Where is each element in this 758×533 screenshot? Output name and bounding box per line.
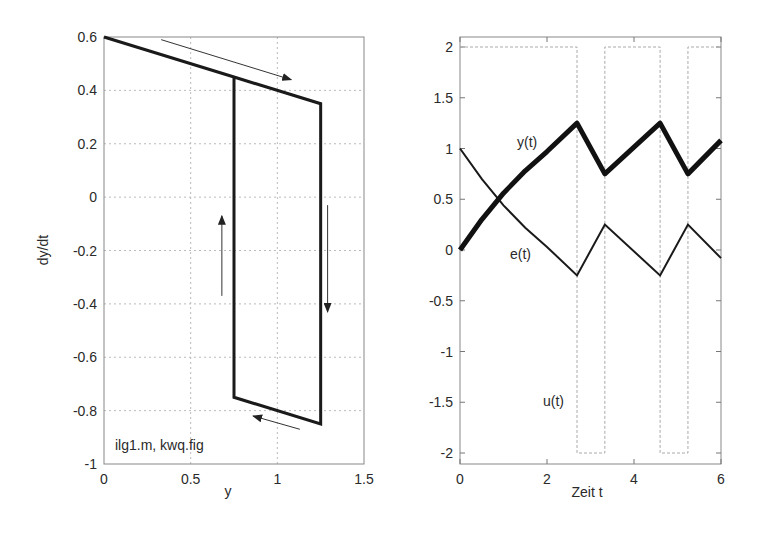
annotation-text: ilg1.m, kwq.fig bbox=[115, 437, 204, 453]
time-plot: 024621.510.50-0.5-1-1.5-2 y(t) e(t) u(t)… bbox=[429, 37, 725, 500]
y-tick-label: -0.4 bbox=[73, 296, 97, 312]
y-tick-label: 0.6 bbox=[78, 29, 98, 45]
y-tick-label: 1 bbox=[445, 141, 453, 157]
figure: 00.511.50.60.40.20-0.2-0.4-0.6-0.8-1 ilg… bbox=[0, 0, 758, 533]
y-tick-label: 0.2 bbox=[78, 136, 98, 152]
label-e-t: e(t) bbox=[510, 246, 531, 262]
x-tick-label: 0.5 bbox=[181, 471, 201, 487]
y-tick-label: -0.8 bbox=[73, 403, 97, 419]
y-tick-label: -1 bbox=[85, 456, 98, 472]
label-u-t: u(t) bbox=[543, 393, 564, 409]
left-ylabel: dy/dt bbox=[35, 235, 51, 265]
y-tick-label: 0 bbox=[89, 189, 97, 205]
y-tick-label: 0.4 bbox=[78, 82, 98, 98]
phase-trajectory-line bbox=[104, 37, 321, 424]
y-tick-label: 2 bbox=[445, 39, 453, 55]
x-tick-label: 2 bbox=[543, 471, 551, 487]
y-tick-label: -0.5 bbox=[429, 293, 453, 309]
y-tick-label: -0.6 bbox=[73, 349, 97, 365]
arrow-left-up-icon bbox=[253, 416, 300, 429]
x-tick-label: 0 bbox=[456, 471, 464, 487]
y-tick-label: -0.2 bbox=[73, 243, 97, 259]
phase-plot: 00.511.50.60.40.20-0.2-0.4-0.6-0.8-1 ilg… bbox=[35, 29, 374, 499]
x-tick-label: 6 bbox=[717, 471, 725, 487]
right-xlabel: Zeit t bbox=[571, 484, 602, 500]
y-tick-label: -2 bbox=[441, 445, 454, 461]
y-tick-label: 0.5 bbox=[434, 191, 454, 207]
x-tick-label: 1 bbox=[273, 471, 281, 487]
left-tick-labels: 00.511.50.60.40.20-0.2-0.4-0.6-0.8-1 bbox=[73, 29, 374, 487]
y-signal-line bbox=[460, 123, 721, 250]
left-xlabel: y bbox=[225, 483, 232, 499]
x-tick-label: 1.5 bbox=[354, 471, 374, 487]
y-tick-label: -1.5 bbox=[429, 394, 453, 410]
label-y-t: y(t) bbox=[517, 134, 537, 150]
y-tick-label: -1 bbox=[441, 344, 454, 360]
y-tick-label: 0 bbox=[445, 242, 453, 258]
x-tick-label: 0 bbox=[100, 471, 108, 487]
y-tick-label: 1.5 bbox=[434, 90, 454, 106]
x-tick-label: 4 bbox=[630, 471, 638, 487]
